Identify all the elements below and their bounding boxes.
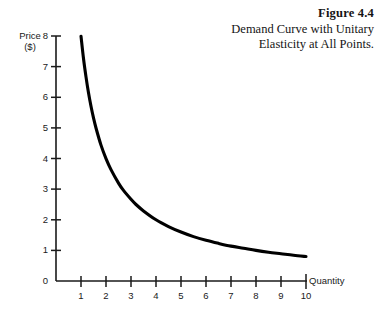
y-tick-label: 3 [34, 183, 48, 194]
y-tick-label: 4 [34, 153, 48, 164]
x-tick-label: 10 [298, 290, 314, 301]
demand-curve [81, 36, 306, 256]
y-tick-label: 2 [34, 214, 48, 225]
y-tick-label: 0 [34, 275, 48, 286]
x-tick-label: 9 [273, 290, 289, 301]
y-axis-label-line2: ($) [13, 42, 47, 53]
x-tick-label: 3 [123, 290, 139, 301]
x-tick-label: 8 [248, 290, 264, 301]
x-tick-label: 7 [223, 290, 239, 301]
x-tick-label: 1 [73, 290, 89, 301]
y-tick-label: 7 [34, 61, 48, 72]
x-tick-label: 2 [98, 290, 114, 301]
x-tick-label: 5 [173, 290, 189, 301]
y-tick-label: 8 [34, 30, 48, 41]
y-tick-label: 5 [34, 122, 48, 133]
y-tick-label: 1 [34, 244, 48, 255]
x-axis-label: Quantity [309, 275, 344, 286]
figure-page: Figure 4.4 Demand Curve with Unitary Ela… [0, 0, 382, 315]
x-tick-label: 4 [148, 290, 164, 301]
y-tick-label: 6 [34, 91, 48, 102]
demand-curve-plot [0, 0, 382, 315]
x-tick-label: 6 [198, 290, 214, 301]
